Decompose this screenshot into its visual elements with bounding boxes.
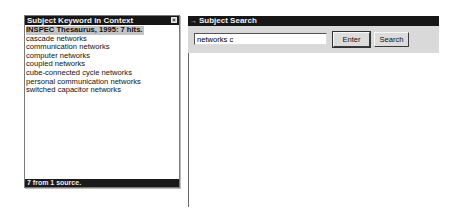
search-results-area [188, 53, 440, 207]
arrow-icon: → [190, 16, 197, 26]
kwic-title: Subject Keyword in Context [27, 16, 133, 25]
search-input[interactable] [194, 33, 327, 45]
search-toolbar: Enter Search [188, 26, 439, 54]
kwic-titlebar[interactable]: Subject Keyword in Context [25, 16, 179, 25]
status-bar: 7 from 1 source. [25, 179, 179, 187]
subject-search-window: →Subject Search Enter Search [188, 16, 439, 207]
close-icon[interactable] [171, 17, 177, 23]
enter-button[interactable]: Enter [333, 32, 370, 47]
list-item[interactable]: switched capacitor networks [26, 86, 179, 95]
kwic-list: INSPEC Thesaurus, 1995: 7 hits. cascade … [25, 25, 179, 95]
search-button[interactable]: Search [374, 32, 409, 47]
search-title: Subject Search [199, 16, 257, 25]
search-titlebar[interactable]: →Subject Search [188, 16, 439, 26]
subject-keyword-in-context-window: Subject Keyword in Context INSPEC Thesau… [24, 15, 180, 188]
